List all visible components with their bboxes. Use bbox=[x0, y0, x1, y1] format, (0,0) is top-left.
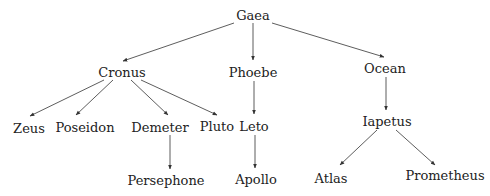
edge-gaea-to-cronus bbox=[123, 23, 234, 61]
node-persephone: Persephone bbox=[127, 174, 204, 187]
edges-group bbox=[30, 23, 435, 169]
node-ocean: Ocean bbox=[364, 62, 406, 75]
node-atlas: Atlas bbox=[315, 172, 348, 185]
edge-iapetus-to-prometheus bbox=[396, 130, 435, 165]
node-phoebe: Phoebe bbox=[229, 66, 278, 79]
node-pluto: Pluto bbox=[200, 120, 234, 133]
node-gaea: Gaea bbox=[236, 9, 270, 22]
node-poseidon: Poseidon bbox=[55, 121, 114, 134]
node-iapetus: Iapetus bbox=[362, 115, 411, 128]
edge-gaea-to-ocean bbox=[272, 23, 384, 57]
node-prometheus: Prometheus bbox=[405, 169, 484, 182]
node-leto: Leto bbox=[239, 120, 268, 133]
node-demeter: Demeter bbox=[131, 121, 188, 134]
edge-cronus-to-pluto bbox=[141, 80, 217, 115]
edge-cronus-to-demeter bbox=[131, 80, 168, 115]
edge-iapetus-to-atlas bbox=[340, 130, 377, 165]
edge-cronus-to-poseidon bbox=[76, 80, 113, 115]
node-cronus: Cronus bbox=[98, 66, 145, 79]
edge-cronus-to-zeus bbox=[30, 80, 104, 116]
node-zeus: Zeus bbox=[13, 122, 45, 135]
node-apollo: Apollo bbox=[235, 173, 277, 186]
